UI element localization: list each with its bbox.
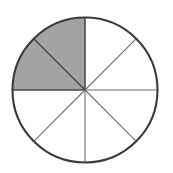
fraction-circle-figure: A circle divided into 8 equal sectors; t… [0,0,173,173]
fraction-circle-diagram: A circle divided into 8 equal sectors; t… [0,0,173,173]
